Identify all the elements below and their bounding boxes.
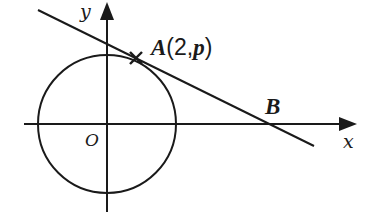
- point-a-name: A: [149, 35, 166, 60]
- diagram-svg: y x O A(2,p) B: [0, 0, 378, 212]
- y-axis-arrow-icon: [100, 2, 114, 20]
- x-axis-arrow-icon: [339, 117, 357, 131]
- point-a-y-coord: p: [191, 35, 205, 60]
- point-a-label: A(2,p): [149, 34, 212, 60]
- point-a-close-paren: ): [205, 34, 213, 60]
- y-axis-label: y: [79, 0, 91, 22]
- point-b-label: B: [264, 94, 280, 119]
- point-a-x-coord: 2,: [174, 34, 193, 60]
- diagram-canvas: y x O A(2,p) B: [0, 0, 378, 212]
- origin-label: O: [85, 130, 99, 150]
- x-axis-label: x: [343, 130, 354, 152]
